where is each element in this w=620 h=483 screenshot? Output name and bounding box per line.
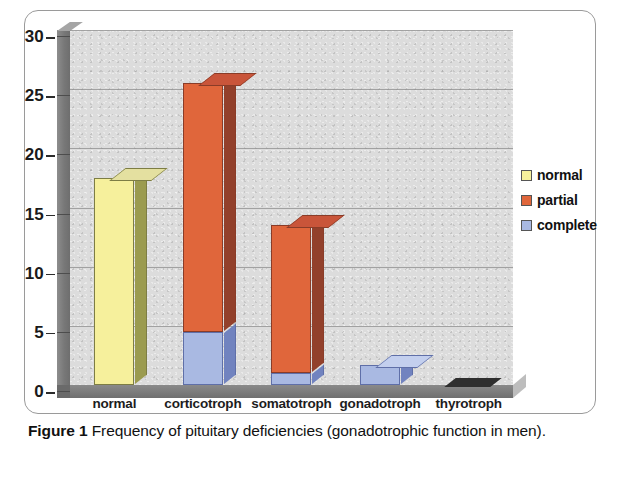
bar-segment-partial[interactable] [271, 225, 311, 373]
bar-segment-partial[interactable] [183, 83, 223, 332]
x-axis-tick-label: somatotroph [247, 396, 336, 422]
x-axis-tick-label: normal [70, 396, 159, 422]
bar-segment-side-partial [224, 75, 236, 331]
bar-slot[interactable] [247, 30, 336, 385]
legend-swatch-complete [521, 220, 532, 231]
legend-swatch-normal [521, 170, 532, 181]
y-axis-tick-label: 10 [0, 264, 44, 284]
figure-caption-text: Frequency of pituitary deficiencies (gon… [88, 422, 546, 439]
y-axis-tick-mark [46, 392, 55, 394]
bar-slot[interactable] [159, 30, 248, 385]
y-axis-tick-label: 25 [0, 86, 44, 106]
bar-segment-side-complete [224, 323, 236, 384]
x-axis-tick-label: gonadotroph [336, 396, 425, 422]
bar-slot[interactable] [424, 30, 513, 385]
y-axis-tick-stub [57, 391, 70, 392]
y-axis-tick-mark [46, 333, 55, 335]
y-axis-tick-stub [57, 214, 70, 215]
bar-segment-side-normal [135, 170, 147, 384]
legend-item-normal[interactable]: normal [521, 167, 613, 183]
x-axis-tick-label: thyrotroph [424, 396, 513, 422]
bar-segment-complete[interactable] [360, 365, 400, 385]
y-axis-tick-stub [57, 36, 70, 37]
y-axis-tick-labels: 302520151050 [0, 0, 44, 420]
y-axis-tick-mark [46, 37, 55, 39]
chart-canvas: 302520151050 normalcorticotrophsomatotro… [0, 0, 620, 420]
x-axis-tick-label: corticotroph [159, 396, 248, 422]
bar-segment-side-partial [312, 217, 324, 372]
y-axis-tick-stub [57, 332, 70, 333]
legend-item-complete[interactable]: complete [521, 217, 613, 233]
bar-segment-complete[interactable] [183, 332, 223, 385]
legend-label-complete: complete [537, 217, 597, 233]
bar-gonadotroph[interactable] [360, 365, 400, 385]
x-axis-tick-labels: normalcorticotrophsomatotrophgonadotroph… [70, 396, 513, 422]
bar-slot[interactable] [70, 30, 159, 385]
figure-caption: Figure 1 Frequency of pituitary deficien… [28, 421, 598, 442]
y-axis-tick-mark [46, 96, 55, 98]
y-axis-tick-label: 0 [0, 382, 44, 402]
y-axis-tick-mark [46, 155, 55, 157]
bar-normal[interactable] [94, 178, 134, 385]
legend-swatch-partial [521, 195, 532, 206]
y-axis-tick-stub [57, 273, 70, 274]
bar-segment-normal[interactable] [94, 178, 134, 385]
y-axis-tick-mark [46, 215, 55, 217]
bar-corticotroph[interactable] [183, 83, 223, 385]
bar-slot[interactable] [336, 30, 425, 385]
y-axis-tick-stub [57, 154, 70, 155]
bar-segment-complete[interactable] [271, 373, 311, 385]
chart-legend: normalpartialcomplete [521, 167, 613, 242]
plot-floor-right-corner [513, 374, 526, 398]
legend-label-normal: normal [537, 167, 582, 183]
bar-somatotroph[interactable] [271, 225, 311, 385]
legend-label-partial: partial [537, 192, 578, 208]
y-axis-tick-label: 20 [0, 145, 44, 165]
y-axis-tick-label: 30 [0, 27, 44, 47]
y-axis-tick-mark [46, 274, 55, 276]
bar-group [70, 30, 513, 385]
y-axis-tick-label: 15 [0, 205, 44, 225]
y-axis-tick-stub [57, 95, 70, 96]
y-axis-tick-label: 5 [0, 323, 44, 343]
figure-caption-label: Figure 1 [28, 422, 88, 439]
legend-item-partial[interactable]: partial [521, 192, 613, 208]
